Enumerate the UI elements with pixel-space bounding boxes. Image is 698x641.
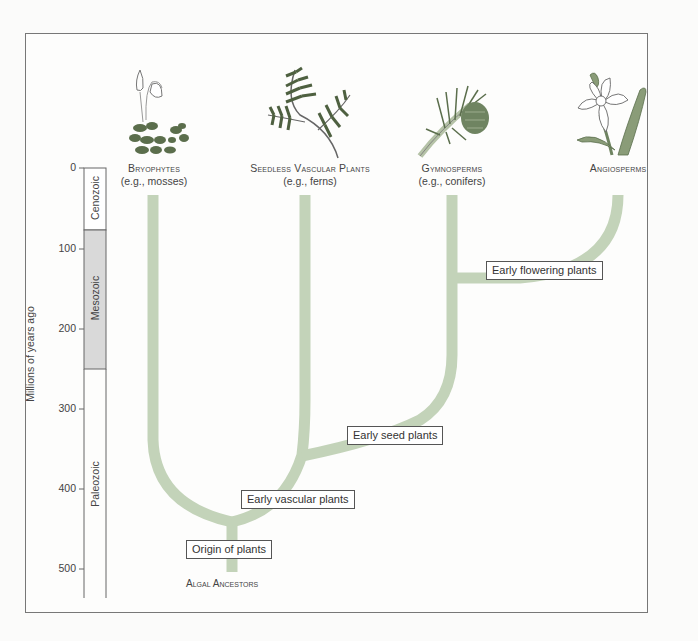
taxon-name: Gymnosperms <box>400 162 504 175</box>
daffodil-icon <box>577 73 646 155</box>
bryophyte-branch <box>153 195 232 522</box>
tick-500: 500 <box>46 562 76 574</box>
era-paleozoic: Paleozoic <box>89 454 101 514</box>
taxon-gymnosperms: Gymnosperms (e.g., conifers) <box>400 162 504 188</box>
conifer-icon <box>420 86 489 156</box>
taxon-name: Angiosperms <box>570 162 666 175</box>
phylogeny-tree <box>0 0 698 641</box>
fern-icon <box>268 68 350 158</box>
time-scale <box>79 168 106 598</box>
tick-200: 200 <box>46 322 76 334</box>
vascular-branch <box>232 195 305 522</box>
event-early-seed-plants: Early seed plants <box>347 426 443 445</box>
taxon-example: (e.g., mosses) <box>106 175 202 188</box>
tick-300: 300 <box>46 402 76 414</box>
event-early-flowering-plants: Early flowering plants <box>486 261 603 280</box>
y-axis-label: Millions of years ago <box>24 306 36 402</box>
event-origin-of-plants: Origin of plants <box>186 540 272 559</box>
taxon-name: Seedless Vascular Plants <box>240 162 380 175</box>
taxon-angiosperms: Angiosperms <box>570 162 666 175</box>
taxon-example: (e.g., conifers) <box>400 175 504 188</box>
seed-branch <box>302 195 452 456</box>
tick-100: 100 <box>46 242 76 254</box>
taxon-bryophytes: Bryophytes (e.g., mosses) <box>106 162 202 188</box>
tick-400: 400 <box>46 482 76 494</box>
taxon-name: Bryophytes <box>106 162 202 175</box>
branches <box>153 195 618 572</box>
tick-0: 0 <box>46 161 76 173</box>
era-cenozoic: Cenozoic <box>89 168 101 228</box>
event-early-vascular-plants: Early vascular plants <box>241 490 355 509</box>
taxon-seedless-vascular: Seedless Vascular Plants (e.g., ferns) <box>240 162 380 188</box>
era-mesozoic: Mesozoic <box>89 268 101 328</box>
root-label-algal-ancestors: Algal Ancestors <box>186 578 258 589</box>
moss-icon <box>129 70 189 154</box>
taxon-example: (e.g., ferns) <box>240 175 380 188</box>
